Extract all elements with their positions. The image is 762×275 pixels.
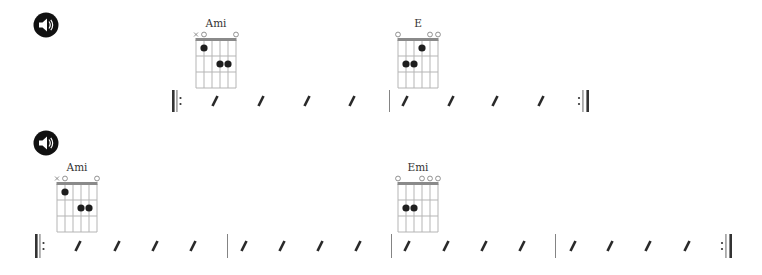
rhythm-slash xyxy=(444,241,449,251)
rhythm-slash xyxy=(153,241,158,251)
start-repeat-sign xyxy=(35,234,45,258)
rhythm-slash xyxy=(356,241,361,251)
start-repeat-sign xyxy=(172,90,182,112)
fretboard-grid xyxy=(388,17,448,97)
speaker-icon xyxy=(33,130,59,156)
barline xyxy=(391,234,392,258)
rhythm-slash xyxy=(520,241,525,251)
barline xyxy=(555,234,556,258)
rhythm-slash xyxy=(259,96,264,106)
fretboard-grid xyxy=(186,17,246,97)
rhythm-slash xyxy=(115,241,120,251)
chord-diagram-emi: Emi xyxy=(388,161,448,241)
rhythm-slash xyxy=(539,96,544,106)
rhythm-slash xyxy=(685,241,690,251)
rhythm-slash xyxy=(608,241,613,251)
rhythm-slash xyxy=(191,241,196,251)
rhythm-slash xyxy=(213,96,218,106)
speaker-icon xyxy=(33,12,59,38)
rhythm-slash xyxy=(571,241,576,251)
rhythm-slash xyxy=(405,241,410,251)
end-repeat-sign xyxy=(578,90,589,112)
rhythm-slash xyxy=(646,241,651,251)
play-button[interactable] xyxy=(33,12,59,38)
rhythm-slash xyxy=(280,241,285,251)
barline xyxy=(389,90,390,112)
rhythm-slash xyxy=(305,96,310,106)
rhythm-slash xyxy=(482,241,487,251)
chord-diagram-ami: Ami xyxy=(186,17,246,97)
barline xyxy=(227,234,228,258)
rhythm-slash xyxy=(493,96,498,106)
fretboard-grid xyxy=(388,161,448,241)
play-button[interactable] xyxy=(33,130,59,156)
rhythm-slash xyxy=(242,241,247,251)
rhythm-slash xyxy=(76,241,81,251)
rhythm-staff xyxy=(0,232,762,260)
rhythm-slash xyxy=(449,96,454,106)
chord-diagram-e: E xyxy=(388,17,448,97)
end-repeat-sign xyxy=(721,234,732,258)
rhythm-staff xyxy=(0,88,762,114)
rhythm-slash xyxy=(318,241,323,251)
fretboard-grid xyxy=(47,161,107,241)
rhythm-slash xyxy=(350,96,355,106)
rhythm-slash xyxy=(403,96,408,106)
chord-diagram-ami: Ami xyxy=(47,161,107,241)
